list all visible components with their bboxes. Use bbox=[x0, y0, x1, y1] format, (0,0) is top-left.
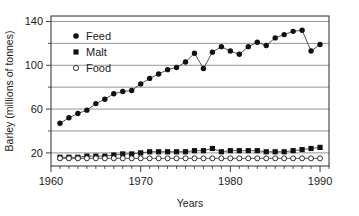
data-point bbox=[219, 149, 224, 154]
x-tick-label: 1960 bbox=[39, 175, 63, 187]
x-axis-title: Years bbox=[177, 197, 203, 209]
data-point bbox=[120, 89, 125, 94]
data-point bbox=[210, 49, 215, 54]
legend-marker-open-circle bbox=[73, 65, 78, 70]
data-point bbox=[183, 149, 188, 154]
data-point bbox=[75, 156, 80, 161]
series-feed bbox=[57, 28, 322, 126]
data-point bbox=[156, 156, 161, 161]
series-line-malt bbox=[60, 147, 320, 157]
data-point bbox=[66, 115, 71, 120]
data-point bbox=[246, 156, 251, 161]
data-point bbox=[201, 66, 206, 71]
data-point bbox=[219, 44, 224, 49]
data-point bbox=[138, 81, 143, 86]
data-point bbox=[219, 156, 224, 161]
data-point bbox=[237, 52, 242, 57]
data-point bbox=[290, 29, 295, 34]
data-point bbox=[255, 148, 260, 153]
chart-legend: FeedMaltFood bbox=[73, 30, 111, 74]
data-point bbox=[228, 156, 233, 161]
data-point bbox=[84, 156, 89, 161]
legend-item-food: Food bbox=[73, 62, 111, 74]
data-point bbox=[156, 71, 161, 76]
chart-figure: 2060100140 1960197019801990 FeedMaltFood… bbox=[0, 0, 359, 216]
data-point bbox=[317, 145, 322, 150]
data-point bbox=[255, 40, 260, 45]
y-axis-title: Barley (millions of tonnes) bbox=[3, 31, 15, 152]
legend-marker-filled-circle bbox=[73, 33, 79, 39]
data-point bbox=[273, 149, 278, 154]
data-point bbox=[165, 67, 170, 72]
y-tick-label: 100 bbox=[25, 59, 43, 71]
data-point bbox=[147, 156, 152, 161]
data-point bbox=[282, 149, 287, 154]
data-point bbox=[57, 156, 62, 161]
barley-usage-line-chart: 2060100140 1960197019801990 FeedMaltFood… bbox=[0, 0, 359, 216]
data-point bbox=[174, 156, 179, 161]
data-point bbox=[147, 76, 152, 81]
data-point bbox=[228, 48, 233, 53]
data-point bbox=[308, 48, 313, 53]
data-point bbox=[84, 107, 89, 112]
data-point bbox=[102, 156, 107, 161]
y-tick-label: 20 bbox=[31, 147, 43, 159]
data-point bbox=[273, 156, 278, 161]
data-point bbox=[237, 156, 242, 161]
data-point bbox=[192, 51, 197, 56]
data-point bbox=[201, 156, 206, 161]
data-point bbox=[264, 43, 269, 48]
data-point bbox=[237, 148, 242, 153]
data-point bbox=[318, 156, 323, 161]
data-point bbox=[300, 147, 305, 152]
data-point bbox=[246, 44, 251, 49]
data-point bbox=[138, 150, 143, 155]
data-point bbox=[93, 101, 98, 106]
data-point bbox=[272, 35, 277, 40]
data-point bbox=[120, 156, 125, 161]
data-point bbox=[255, 156, 260, 161]
data-point bbox=[156, 149, 161, 154]
data-point bbox=[300, 156, 305, 161]
data-point bbox=[264, 156, 269, 161]
data-point bbox=[93, 156, 98, 161]
data-point bbox=[228, 148, 233, 153]
data-point bbox=[201, 148, 206, 153]
data-point bbox=[57, 121, 62, 126]
data-point bbox=[165, 156, 170, 161]
x-tick-label: 1970 bbox=[128, 175, 152, 187]
data-point bbox=[299, 28, 304, 33]
data-point bbox=[111, 156, 116, 161]
data-point bbox=[264, 149, 269, 154]
data-point bbox=[147, 149, 152, 154]
legend-label: Food bbox=[86, 62, 111, 74]
data-point bbox=[291, 156, 296, 161]
data-point bbox=[183, 59, 188, 64]
data-point bbox=[281, 32, 286, 37]
legend-marker-filled-square bbox=[73, 49, 78, 54]
data-point bbox=[317, 42, 322, 47]
data-point bbox=[174, 149, 179, 154]
data-point bbox=[246, 148, 251, 153]
data-point bbox=[66, 156, 71, 161]
data-point bbox=[174, 65, 179, 70]
legend-item-feed: Feed bbox=[73, 30, 111, 42]
x-axis-tick-labels: 1960197019801990 bbox=[39, 175, 333, 187]
data-point bbox=[210, 146, 215, 151]
legend-item-malt: Malt bbox=[73, 46, 106, 58]
data-point bbox=[129, 156, 134, 161]
y-axis-tick-labels: 2060100140 bbox=[25, 15, 43, 158]
data-point bbox=[210, 156, 215, 161]
data-point bbox=[308, 146, 313, 151]
data-point bbox=[129, 88, 134, 93]
data-point bbox=[102, 97, 107, 102]
legend-label: Feed bbox=[86, 30, 111, 42]
data-point bbox=[192, 148, 197, 153]
data-point bbox=[309, 156, 314, 161]
data-point bbox=[165, 149, 170, 154]
data-point bbox=[282, 156, 287, 161]
data-point bbox=[111, 91, 116, 96]
y-tick-label: 60 bbox=[31, 103, 43, 115]
data-point bbox=[75, 111, 80, 116]
data-point bbox=[192, 156, 197, 161]
